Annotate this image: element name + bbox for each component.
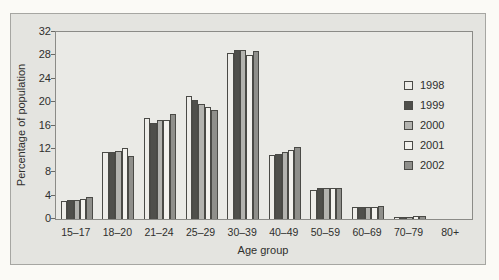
legend-label: 2001 [420, 139, 444, 151]
y-tick-mark [51, 31, 55, 32]
y-tick-mark [51, 101, 55, 102]
bar-2002 [253, 51, 259, 219]
bar-group [264, 32, 306, 219]
x-tick-label: 80+ [429, 226, 471, 238]
y-tick-mark [51, 125, 55, 126]
x-tick-label: 60–69 [346, 226, 388, 238]
legend-label: 1999 [420, 99, 444, 111]
bar-2002 [294, 147, 300, 220]
y-tick-mark [51, 171, 55, 172]
bar-group [306, 32, 348, 219]
x-tick-label: 21–24 [138, 226, 180, 238]
bar-2002 [419, 216, 425, 220]
legend-item: 1999 [404, 95, 444, 115]
legend-swatch-2000 [404, 121, 413, 130]
y-tick-label: 24 [13, 71, 51, 85]
x-tick-label: 18–20 [97, 226, 139, 238]
scanned-chart-figure: Percentage of population 048121620242832… [0, 0, 499, 280]
legend-item: 2000 [404, 115, 444, 135]
y-tick-mark [51, 218, 55, 219]
bar-2002 [86, 197, 92, 219]
y-tick-mark [51, 54, 55, 55]
y-tick-label: 28 [13, 47, 51, 61]
bar-group [98, 32, 140, 219]
legend-label: 2002 [420, 159, 444, 171]
legend-swatch-2002 [404, 161, 413, 170]
y-tick-mark [51, 78, 55, 79]
x-tick-label: 30–39 [221, 226, 263, 238]
x-axis-title: Age group [55, 244, 471, 256]
y-tick-label: 20 [13, 94, 51, 108]
bar-group [222, 32, 264, 219]
legend-swatch-2001 [404, 141, 413, 150]
bar-2002 [170, 114, 176, 219]
x-tick-label: 50–59 [305, 226, 347, 238]
bar-2002 [211, 110, 217, 219]
y-tick-label: 32 [13, 24, 51, 38]
legend-label: 2000 [420, 119, 444, 131]
y-tick-mark [51, 195, 55, 196]
y-tick-label: 0 [13, 211, 51, 225]
bar-2002 [128, 156, 134, 219]
bar-group [56, 32, 98, 219]
chart-panel: Percentage of population 048121620242832… [10, 13, 486, 265]
y-tick-label: 12 [13, 141, 51, 155]
legend-swatch-1998 [404, 81, 413, 90]
y-tick-mark [51, 148, 55, 149]
bar-group [139, 32, 181, 219]
bar-2002 [378, 206, 384, 219]
bar-group [181, 32, 223, 219]
x-tick-label: 40–49 [263, 226, 305, 238]
legend-item: 2001 [404, 135, 444, 155]
legend-swatch-1999 [404, 101, 413, 110]
chart-legend: 19981999200020012002 [404, 75, 444, 175]
legend-item: 2002 [404, 155, 444, 175]
x-tick-label: 15–17 [55, 226, 97, 238]
legend-item: 1998 [404, 75, 444, 95]
legend-label: 1998 [420, 79, 444, 91]
x-tick-label: 25–29 [180, 226, 222, 238]
bar-2002 [336, 188, 342, 219]
y-tick-label: 16 [13, 118, 51, 132]
y-tick-label: 8 [13, 164, 51, 178]
x-tick-label: 70–79 [388, 226, 430, 238]
bar-group [347, 32, 389, 219]
y-tick-label: 4 [13, 188, 51, 202]
